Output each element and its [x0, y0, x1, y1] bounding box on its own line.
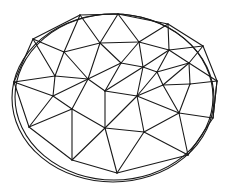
mesh-edge: [64, 43, 100, 52]
mesh-edge: [139, 24, 168, 42]
mesh-edge: [80, 15, 100, 43]
mesh-edge: [143, 67, 157, 72]
mesh-edge: [100, 42, 139, 43]
mesh-edge: [14, 76, 55, 82]
mesh-edge: [144, 113, 179, 132]
mesh-edge: [72, 79, 88, 109]
mesh-edge: [33, 15, 80, 39]
mesh-edge: [105, 91, 137, 96]
mesh-edge: [143, 50, 169, 67]
mesh-edge: [163, 85, 179, 113]
mesh-edge: [53, 76, 55, 96]
mesh-edge: [55, 76, 88, 79]
mesh-edge: [105, 67, 143, 91]
mesh-edge: [118, 14, 139, 42]
mesh-edge: [29, 127, 72, 160]
mesh-edge: [100, 43, 121, 63]
mesh-edge: [14, 39, 33, 82]
mesh-edge: [179, 113, 188, 155]
mesh-edge: [72, 160, 117, 173]
mesh-edge: [105, 128, 144, 132]
mesh-edge: [105, 96, 137, 128]
mesh-edge: [189, 63, 217, 81]
mesh-edge: [121, 63, 143, 67]
mesh-edge: [139, 42, 169, 50]
mesh-edge: [118, 14, 168, 24]
mesh-edge: [72, 128, 105, 160]
mesh-edge: [144, 132, 188, 155]
mesh-edge: [169, 46, 203, 50]
mesh-edge: [14, 82, 53, 96]
mesh-edge: [137, 96, 144, 132]
triangulated-ellipse-diagram: [0, 0, 227, 184]
mesh-edge: [55, 52, 64, 76]
mesh-edge: [139, 42, 143, 67]
mesh-edge: [188, 118, 213, 155]
mesh-edge: [88, 79, 105, 91]
mesh-edge: [72, 109, 105, 128]
mesh-edge: [64, 52, 88, 79]
mesh-edge: [33, 39, 55, 76]
mesh-edge: [64, 15, 80, 52]
mesh-edge: [169, 50, 189, 63]
mesh-edge: [179, 84, 190, 113]
mesh-edge: [80, 14, 118, 15]
mesh-edge: [179, 113, 213, 118]
mesh-edge: [100, 14, 118, 43]
mesh-edge: [168, 24, 203, 46]
mesh-edge: [163, 84, 190, 85]
mesh-edge: [105, 128, 117, 173]
mesh-edge: [33, 39, 64, 52]
mesh-edge: [14, 82, 29, 127]
outline-stroke: [15, 14, 213, 180]
mesh-edge: [53, 96, 72, 109]
mesh-edge: [53, 79, 88, 96]
mesh-edge: [121, 42, 139, 63]
mesh-edge: [189, 63, 190, 84]
mesh-edge: [189, 46, 203, 63]
mesh-edge: [157, 72, 163, 85]
mesh-edge: [137, 96, 179, 113]
